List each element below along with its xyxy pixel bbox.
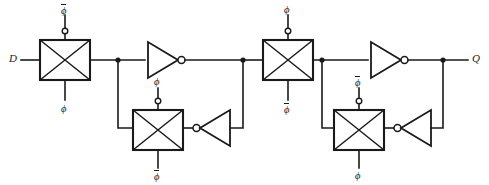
tg3-bottom-clock-label: ϕ	[284, 103, 289, 116]
inverter-1-triangle	[148, 42, 178, 78]
tg4-top-clock-label: ϕ	[355, 76, 360, 89]
tg2-bottom-clock-label: ϕ	[154, 170, 159, 183]
tg3-top-clock-label: ϕ	[284, 5, 289, 16]
inverter-4-triangle	[401, 110, 431, 146]
tg2-top-clock-label: ϕ	[154, 77, 159, 88]
tg1-pmos-bubble-icon	[62, 28, 68, 34]
wire-noded-to-inv4	[431, 60, 443, 128]
wire-master-feedback-to-tg2	[118, 60, 133, 128]
tg2-pmos-bubble-icon	[155, 98, 161, 104]
circuit-diagram: D Q ϕ ϕ ϕ ϕ ϕ ϕ ϕ ϕ	[0, 0, 489, 185]
wire-slave-feedback-to-tg4	[322, 60, 334, 128]
inverter-1-bubble-icon	[178, 57, 185, 64]
tg1-bottom-clock-label: ϕ	[61, 104, 66, 115]
wire-nodeb-to-inv2	[230, 60, 243, 128]
tg3-pmos-bubble-icon	[285, 28, 291, 34]
inverter-2-triangle	[200, 110, 230, 146]
output-port-label-q: Q	[472, 53, 480, 64]
tg4-bottom-clock-label: ϕ	[355, 171, 360, 182]
input-port-label-d: D	[9, 53, 17, 64]
tg4-pmos-bubble-icon	[356, 98, 362, 104]
circuit-schematic-canvas	[0, 0, 489, 185]
inverter-3-bubble-icon	[401, 57, 408, 64]
tg1-top-clock-label: ϕ	[61, 4, 66, 17]
inverter-3-triangle	[371, 42, 401, 78]
